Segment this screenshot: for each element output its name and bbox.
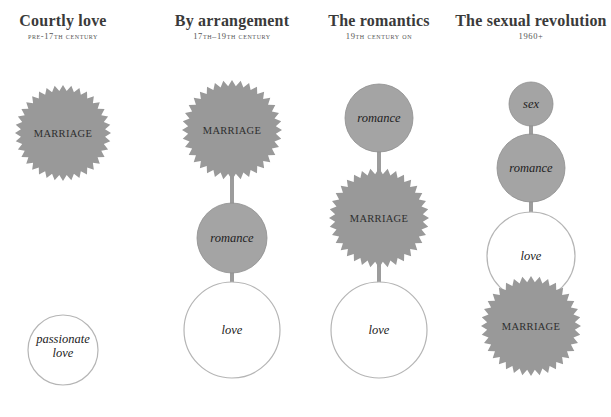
node-love: love (331, 282, 427, 378)
column-1: MARRIAGEromancelove (182, 80, 282, 378)
node-sex: sex (509, 82, 553, 126)
node-marriage: MARRIAGE (329, 168, 429, 268)
column-2: romanceMARRIAGElove (329, 84, 429, 378)
node-label: romance (509, 161, 553, 175)
column-0: MARRIAGEpassionatelove (15, 85, 111, 385)
node-marriage: MARRIAGE (15, 85, 111, 181)
node-label: love (521, 249, 542, 263)
node-label: passionate (35, 332, 90, 346)
node-label: love (222, 323, 243, 337)
node-romance: romance (197, 203, 267, 273)
node-label: MARRIAGE (502, 321, 560, 332)
node-marriage: MARRIAGE (481, 276, 581, 376)
node-label: MARRIAGE (350, 213, 408, 224)
node-label: MARRIAGE (34, 128, 92, 139)
node-marriage: MARRIAGE (182, 80, 282, 180)
node-romance: romance (345, 84, 413, 152)
node-label: romance (357, 111, 401, 125)
node-love: love (184, 282, 280, 378)
column-3: sexromanceloveMARRIAGE (481, 82, 581, 376)
node-label: MARRIAGE (203, 125, 261, 136)
node-passionate-love: passionatelove (28, 315, 98, 385)
diagram-canvas: MARRIAGEpassionateloveMARRIAGEromancelov… (0, 0, 611, 417)
node-label: sex (523, 97, 539, 111)
node-label: romance (210, 231, 254, 245)
node-label: love (53, 346, 74, 360)
node-romance: romance (497, 134, 565, 202)
node-label: love (369, 323, 390, 337)
